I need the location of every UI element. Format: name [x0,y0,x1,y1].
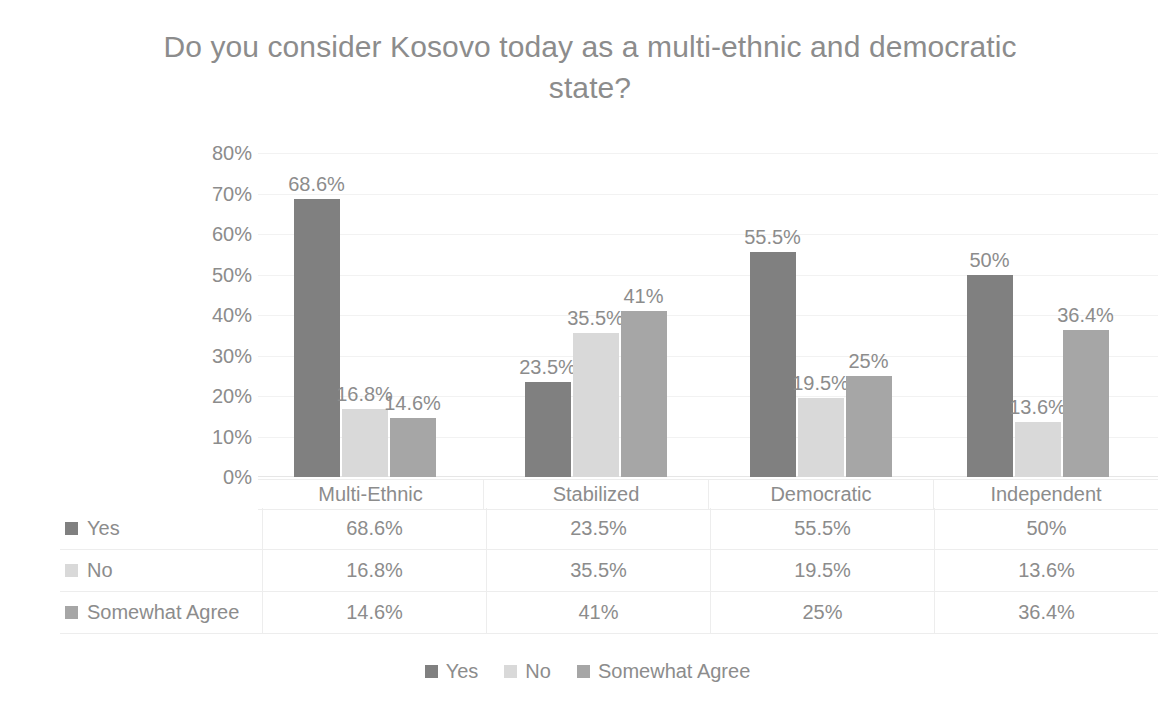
table-row-key: No [60,550,262,591]
table-row-label: Yes [87,517,120,540]
category-axis-row: Multi-EthnicStabilizedDemocraticIndepend… [258,479,1158,510]
bar-value-label: 36.4% [1040,304,1132,327]
legend-label: Yes [446,660,479,683]
table-row-label: Somewhat Agree [87,601,239,624]
y-axis-tick: 80% [178,142,252,165]
table-row: Yes68.6%23.5%55.5%50% [60,508,1158,550]
series-color-swatch-icon [65,606,78,619]
table-cell: 55.5% [710,508,934,549]
table-cell: 13.6% [934,550,1158,591]
table-cell: 50% [934,508,1158,549]
series-color-swatch-icon [65,564,78,577]
table-cell: 14.6% [262,592,486,633]
bar[interactable] [1063,330,1109,477]
bar-value-label: 55.5% [727,226,819,249]
bar[interactable] [294,199,340,477]
bar[interactable] [390,418,436,477]
bar-value-label: 14.6% [367,392,459,415]
bar[interactable] [525,382,571,477]
table-cell: 16.8% [262,550,486,591]
chart-legend: YesNoSomewhat Agree [0,660,1175,683]
table-cell: 19.5% [710,550,934,591]
bar-value-label: 50% [944,249,1036,272]
bar-group: 68.6%16.8%14.6% [258,153,483,477]
bar[interactable] [846,376,892,477]
legend-item[interactable]: Yes [425,660,479,683]
plot-area: 68.6%16.8%14.6%23.5%35.5%41%55.5%19.5%25… [258,153,1158,477]
legend-color-swatch-icon [425,665,438,678]
bar-group: 50%13.6%36.4% [933,153,1158,477]
data-table: Yes68.6%23.5%55.5%50%No16.8%35.5%19.5%13… [60,508,1158,636]
bar-group: 55.5%19.5%25% [708,153,933,477]
bar[interactable] [573,333,619,477]
y-axis-tick: 20% [178,385,252,408]
bar-value-label: 25% [823,350,915,373]
table-cell: 36.4% [934,592,1158,633]
category-label-multi-ethnic: Multi-Ethnic [258,480,483,509]
table-row-key: Yes [60,508,262,549]
chart-plot-region: 80%70%60%50%40%30%20%10%0% 68.6%16.8%14.… [0,145,1175,485]
chart-title: Do you consider Kosovo today as a multi-… [160,26,1020,109]
bar[interactable] [621,311,667,477]
bar[interactable] [750,252,796,477]
legend-label: No [525,660,551,683]
table-row-key: Somewhat Agree [60,592,262,633]
category-label-independent: Independent [933,480,1158,509]
bar[interactable] [1015,422,1061,477]
y-axis-tick: 10% [178,425,252,448]
y-axis: 80%70%60%50%40%30%20%10%0% [178,145,252,477]
legend-item[interactable]: No [504,660,551,683]
table-row: Somewhat Agree14.6%41%25%36.4% [60,592,1158,634]
table-row-label: No [87,559,113,582]
legend-color-swatch-icon [577,665,590,678]
bar[interactable] [798,398,844,477]
bar-value-label: 41% [598,285,690,308]
table-row: No16.8%35.5%19.5%13.6% [60,550,1158,592]
table-cell: 25% [710,592,934,633]
legend-label: Somewhat Agree [598,660,750,683]
table-cell: 23.5% [486,508,710,549]
y-axis-tick: 50% [178,263,252,286]
y-axis-tick: 30% [178,344,252,367]
bar-value-label: 68.6% [271,173,363,196]
table-cell: 41% [486,592,710,633]
y-axis-tick: 0% [178,466,252,489]
legend-item[interactable]: Somewhat Agree [577,660,750,683]
bar-group: 23.5%35.5%41% [483,153,708,477]
y-axis-tick: 60% [178,223,252,246]
table-cell: 35.5% [486,550,710,591]
bar[interactable] [342,409,388,477]
category-label-democratic: Democratic [708,480,933,509]
series-color-swatch-icon [65,522,78,535]
bar[interactable] [967,275,1013,478]
legend-color-swatch-icon [504,665,517,678]
y-axis-tick: 70% [178,182,252,205]
category-label-stabilized: Stabilized [483,480,708,509]
table-cell: 68.6% [262,508,486,549]
y-axis-tick: 40% [178,304,252,327]
